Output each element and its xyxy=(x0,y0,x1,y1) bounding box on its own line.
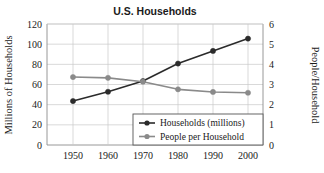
x-axis-tick-label: 1970 xyxy=(133,150,153,161)
x-axis-tick-label: 1980 xyxy=(168,150,188,161)
data-point-marker xyxy=(245,36,250,41)
data-point-marker xyxy=(105,89,110,94)
x-axis-tick-label: 1990 xyxy=(203,150,223,161)
y2-axis-tick-label: 0 xyxy=(269,140,274,151)
data-point-marker xyxy=(210,48,215,53)
legend-marker-icon xyxy=(144,120,149,125)
y-axis-tick-label: 100 xyxy=(27,39,42,50)
chart-legend: Households (millions)People per Househol… xyxy=(133,114,263,145)
us-households-line-chart: U.S. Households Millions of Households P… xyxy=(0,0,324,173)
data-point-marker xyxy=(70,74,75,79)
y2-axis-title: People/Household xyxy=(310,47,321,125)
x-axis-tick-label: 2000 xyxy=(238,150,258,161)
y-axis-title: Millions of Households xyxy=(3,35,14,134)
legend-marker-icon xyxy=(144,134,149,139)
y2-axis-tick-label: 6 xyxy=(269,19,274,30)
legend-item-label: Households (millions) xyxy=(160,118,245,129)
y-axis-tick-label: 40 xyxy=(32,99,42,110)
data-point-marker xyxy=(175,61,180,66)
y-axis-tick-label: 80 xyxy=(32,59,42,70)
chart-container: U.S. Households Millions of Households P… xyxy=(0,0,324,173)
y2-axis-tick-label: 2 xyxy=(269,99,274,110)
data-point-marker xyxy=(105,75,110,80)
y-axis-tick-label: 60 xyxy=(32,79,42,90)
data-point-marker xyxy=(70,98,75,103)
y2-axis-tick-label: 1 xyxy=(269,119,274,130)
data-point-marker xyxy=(175,87,180,92)
y2-axis-tick-label: 5 xyxy=(269,39,274,50)
y-axis-tick-label: 0 xyxy=(37,140,42,151)
y2-axis-tick-label: 4 xyxy=(269,59,274,70)
chart-title: U.S. Households xyxy=(113,5,197,17)
data-point-marker xyxy=(210,89,215,94)
x-axis-tick-label: 1950 xyxy=(63,150,83,161)
y2-axis-tick-label: 3 xyxy=(269,79,274,90)
data-point-marker xyxy=(245,90,250,95)
x-axis-tick-label: 1960 xyxy=(98,150,118,161)
data-point-marker xyxy=(140,79,145,84)
legend-item-label: People per Household xyxy=(160,132,244,142)
y-axis-tick-label: 120 xyxy=(27,19,42,30)
y-axis-tick-label: 20 xyxy=(32,119,42,130)
